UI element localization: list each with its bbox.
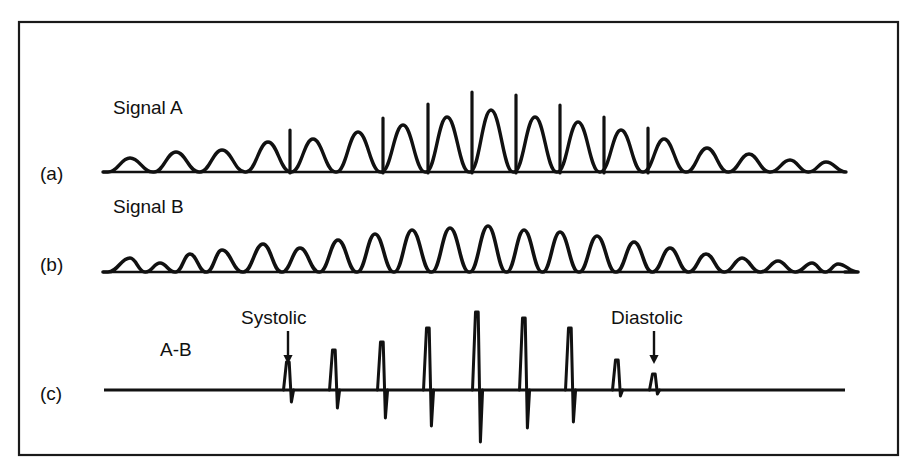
panel-label-c: (c) [40,383,62,404]
signal-figure: (a) Signal A (b) Signal B (c) A-B Systol… [0,0,911,474]
signal-a-title: Signal A [113,97,183,118]
signal-b-title: Signal B [113,196,184,217]
panel-label-b: (b) [40,254,63,275]
panel-label-a: (a) [40,163,63,184]
systolic-label: Systolic [241,307,306,328]
diastolic-label: Diastolic [611,307,683,328]
figure-root: (a) Signal A (b) Signal B (c) A-B Systol… [0,0,911,474]
signal-c-title: A-B [160,339,192,360]
